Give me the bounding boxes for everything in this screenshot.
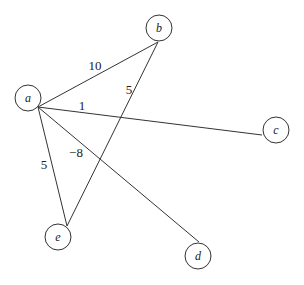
node-b-label: b (156, 21, 162, 35)
edge-b-e (67, 42, 158, 226)
graph-svg: a b c d e 10 1 −8 5 5 (0, 0, 304, 285)
weight-a-e: 5 (41, 157, 48, 172)
edge-a-b (38, 42, 158, 107)
node-d-label: d (195, 249, 202, 263)
weight-a-c: 1 (79, 98, 86, 113)
weight-a-b: 10 (89, 58, 102, 73)
graph-diagram: a b c d e 10 1 −8 5 5 (0, 0, 304, 285)
edge-a-d (38, 107, 199, 242)
weight-b-e: 5 (126, 82, 133, 97)
node-a-label: a (25, 91, 31, 105)
node-c-label: c (273, 123, 279, 137)
edge-a-c (38, 107, 262, 135)
node-e-label: e (55, 230, 61, 244)
weight-a-d: −8 (69, 145, 83, 160)
